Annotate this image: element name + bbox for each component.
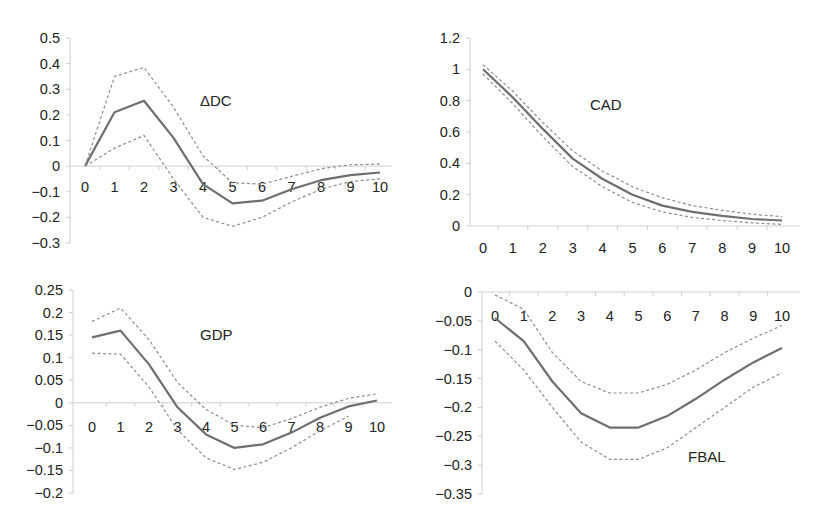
y-tick-label: −0.05 (435, 313, 472, 329)
chart-panel-gdp: 0.250.20.150.10.050−0.05−0.1−0.15−0.2012… (26, 282, 392, 501)
x-tick-label: 4 (599, 240, 607, 256)
y-tick-label: 0.2 (43, 305, 63, 321)
x-tick-label: 9 (749, 308, 757, 324)
y-tick-label: 0 (464, 284, 472, 300)
y-tick-label: 0.2 (440, 187, 460, 203)
x-tick-label: 7 (688, 240, 696, 256)
x-tick-label: 8 (721, 308, 729, 324)
y-tick-label: 0.8 (440, 93, 460, 109)
y-tick-label: 0.4 (440, 155, 460, 171)
x-tick-label: 7 (287, 179, 295, 195)
x-tick-label: 5 (628, 240, 636, 256)
response-line (495, 318, 782, 428)
y-tick-label: 0.1 (40, 133, 60, 149)
chart-panel-delta-dc: 0.50.40.30.20.10−0.1−0.2−0.3012345678910… (31, 30, 392, 251)
y-tick-label: −0.1 (443, 342, 472, 358)
x-tick-label: 2 (145, 419, 153, 435)
y-tick-label: 0 (452, 218, 460, 234)
x-tick-label: 5 (228, 179, 236, 195)
y-tick-label: −0.2 (34, 485, 63, 501)
chart-panel-fbal: 0−0.05−0.1−0.15−0.2−0.25−0.3−0.350123456… (435, 284, 800, 502)
y-tick-label: 1 (452, 61, 460, 77)
y-tick-label: −0.3 (31, 235, 60, 251)
y-tick-label: 0.15 (35, 327, 63, 343)
upper-confidence-band (92, 308, 377, 428)
x-tick-label: 3 (569, 240, 577, 256)
x-tick-label: 6 (258, 179, 266, 195)
y-tick-label: −0.2 (31, 209, 60, 225)
y-tick-label: −0.1 (34, 440, 63, 456)
x-tick-label: 3 (577, 308, 585, 324)
panel-title: FBAL (688, 448, 726, 465)
x-tick-label: 10 (372, 179, 388, 195)
x-tick-label: 10 (774, 308, 790, 324)
lower-confidence-band (483, 74, 782, 224)
response-line (483, 69, 782, 220)
chart-panel-cad: 1.210.80.60.40.20012345678910CAD (440, 30, 800, 256)
y-tick-label: 0.6 (440, 124, 460, 140)
x-tick-label: 0 (88, 419, 96, 435)
y-tick-label: 1.2 (440, 30, 460, 46)
y-tick-label: 0.1 (43, 350, 63, 366)
panel-title: GDP (200, 326, 233, 343)
x-tick-label: 2 (539, 240, 547, 256)
y-tick-label: 0.2 (40, 107, 60, 123)
x-tick-label: 10 (369, 419, 385, 435)
x-tick-label: 9 (344, 419, 352, 435)
panel-title: ΔDC (200, 92, 232, 109)
x-tick-label: 8 (718, 240, 726, 256)
y-tick-label: −0.3 (443, 457, 472, 473)
y-tick-label: −0.2 (443, 399, 472, 415)
x-tick-label: 1 (110, 179, 118, 195)
y-tick-label: −0.1 (31, 184, 60, 200)
x-tick-label: 9 (748, 240, 756, 256)
lower-confidence-band (495, 341, 782, 459)
x-tick-label: 5 (634, 308, 642, 324)
y-tick-label: 0.3 (40, 81, 60, 97)
x-tick-label: 1 (509, 240, 517, 256)
x-tick-label: 2 (548, 308, 556, 324)
y-tick-label: 0 (52, 158, 60, 174)
y-tick-label: 0.5 (40, 30, 60, 46)
x-tick-label: 6 (663, 308, 671, 324)
impulse-response-figure: 0.50.40.30.20.10−0.1−0.2−0.3012345678910… (0, 0, 815, 524)
y-tick-label: −0.25 (435, 428, 472, 444)
x-tick-label: 6 (658, 240, 666, 256)
x-tick-label: 0 (479, 240, 487, 256)
x-tick-label: 4 (606, 308, 614, 324)
y-tick-label: 0.05 (35, 372, 63, 388)
x-tick-label: 7 (692, 308, 700, 324)
y-tick-label: −0.35 (435, 486, 472, 502)
x-tick-label: 0 (81, 179, 89, 195)
y-tick-label: −0.15 (26, 462, 63, 478)
y-tick-label: −0.15 (435, 371, 472, 387)
x-tick-label: 1 (520, 308, 528, 324)
panel-title: CAD (590, 96, 622, 113)
x-tick-label: 2 (140, 179, 148, 195)
x-tick-label: 10 (774, 240, 790, 256)
y-tick-label: 0.25 (35, 282, 63, 298)
y-tick-label: 0 (55, 395, 63, 411)
x-tick-label: 1 (116, 419, 124, 435)
y-tick-label: 0.4 (40, 56, 60, 72)
y-tick-label: −0.05 (26, 417, 63, 433)
x-tick-label: 8 (316, 419, 324, 435)
x-tick-label: 5 (230, 419, 238, 435)
x-tick-label: 3 (169, 179, 177, 195)
